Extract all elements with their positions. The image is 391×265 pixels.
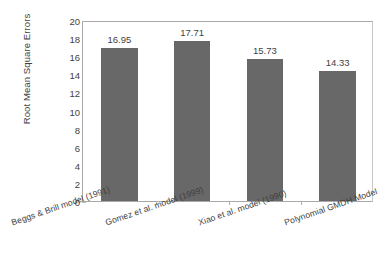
x-axis-label-0: Beggs & Brill model (1991) <box>10 184 111 227</box>
x-axis-category-labels: Beggs & Brill model (1991)Gomez et al. m… <box>0 0 391 265</box>
x-axis-label-1: Gomez et al. model (1999) <box>104 184 205 227</box>
bar-chart: Root Mean Square Errors 0246810121416182… <box>0 0 391 265</box>
x-axis-label-3: Polynomial GMDH Model <box>283 186 378 227</box>
x-axis-label-2: Xiao et al. model (1990) <box>197 188 288 228</box>
